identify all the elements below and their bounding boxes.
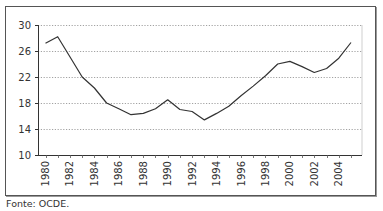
y-tick-label: 14 [18,124,31,135]
source-note: Fonte: OCDE. [6,198,69,210]
x-axis: 1980198219841986198819901992199419961998… [38,155,362,186]
y-tick-label: 22 [18,72,31,83]
x-tick-label: 1988 [138,161,149,186]
x-tick-label: 1998 [260,161,271,186]
y-tick-label: 26 [18,46,31,57]
y-tick-label: 30 [18,20,31,31]
x-tick-label: 2000 [284,161,295,186]
x-tick-label: 1996 [236,161,247,186]
grid-lines [38,25,362,155]
x-tick-label: 1980 [40,161,51,186]
x-tick-label: 1984 [89,161,100,186]
x-tick-label: 1986 [113,161,124,186]
x-tick-label: 1982 [64,161,75,186]
y-axis: 302622181410 [18,20,38,161]
data-line [46,37,352,120]
x-tick-label: 1992 [187,161,198,186]
x-tick-label: 1994 [211,161,222,186]
x-tick-label: 1990 [162,161,173,186]
line-chart: 302622181410 198019821984198619881990199… [0,0,383,196]
x-tick-label: 2004 [333,161,344,186]
x-tick-label: 2002 [309,161,320,186]
y-tick-label: 18 [18,98,31,109]
y-tick-label: 10 [18,150,31,161]
